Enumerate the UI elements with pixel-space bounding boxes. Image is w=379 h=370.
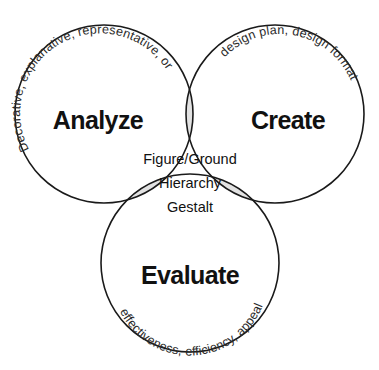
set-label-create: Create — [251, 106, 326, 134]
venn-diagram: Analyze Create Evaluate Decorative, expl… — [0, 0, 379, 370]
descriptor-create: design plan, design format — [217, 23, 361, 83]
set-label-analyze: Analyze — [53, 106, 144, 134]
descriptor-evaluate-textpath: effectiveness, efficiency, appeal — [117, 301, 266, 358]
venn-diagram-canvas: Analyze Create Evaluate Decorative, expl… — [0, 0, 379, 370]
descriptor-evaluate: effectiveness, efficiency, appeal — [117, 301, 266, 358]
center-line-gestalt: Gestalt — [167, 199, 213, 215]
descriptor-create-textpath: design plan, design format — [217, 23, 361, 83]
center-line-figure-ground: Figure/Ground — [143, 151, 237, 167]
set-label-evaluate: Evaluate — [141, 261, 240, 289]
center-line-hierarchy: Hierarchy — [159, 175, 222, 191]
